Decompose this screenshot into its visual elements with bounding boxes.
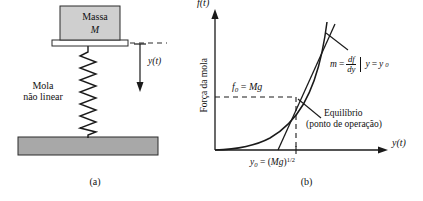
- figure-container: Massa M Mola não linear y(t) (a): [0, 0, 423, 201]
- mass-box-label-m: M: [0, 24, 190, 35]
- mass-support-plate: [52, 40, 128, 46]
- force-level-label: f0 = Mg: [232, 81, 262, 95]
- y-axis-name-label: Força da mola: [199, 37, 210, 133]
- y-axis-tip-label: f(t): [197, 0, 209, 8]
- mass-box-label-massa: Massa: [0, 11, 190, 22]
- force-level-mg: Mg: [249, 81, 262, 92]
- displacement-label-yt: y(t): [148, 56, 161, 67]
- nonlinear-spring: [80, 45, 96, 138]
- slope-m: m: [330, 59, 337, 70]
- equilibrium-annotation: Equilíbrio (ponto de operação): [306, 108, 382, 129]
- slope-fraction: df dy: [346, 55, 356, 74]
- panel-b-drawing: [190, 0, 423, 201]
- displacement-arrow-head: [137, 82, 144, 92]
- slope-eq: =: [339, 59, 344, 70]
- spring-label-line1: Mola: [12, 80, 74, 91]
- slope-annotation: m = df dy y = y0: [330, 55, 389, 74]
- y0-mg: Mg: [271, 157, 284, 167]
- panel-b-force-displacement-chart: f(t) y(t) Força da mola f0 = Mg y0 = (Mg…: [190, 0, 423, 201]
- slope-denominator: dy: [346, 65, 356, 74]
- slope-cond-sub: 0: [385, 61, 388, 68]
- spring-label-line2: não linear: [12, 91, 74, 102]
- force-level-eq: =: [238, 81, 249, 92]
- spring-label: Mola não linear: [12, 80, 74, 102]
- caption-b: (b): [190, 176, 423, 187]
- x-axis-tip-label: y(t): [392, 137, 406, 148]
- y0-exponent: 1/2: [287, 156, 295, 163]
- y0-label: y0 = (Mg)1/2: [250, 156, 295, 168]
- ground-slab: [18, 137, 158, 155]
- x-axis-arrow-head: [378, 146, 388, 153]
- panel-a-mass-spring-diagram: Massa M Mola não linear y(t) (a): [0, 0, 190, 201]
- slope-leader-line: [326, 33, 348, 50]
- tangent-line: [278, 24, 335, 150]
- y0-eq: = (: [258, 157, 271, 167]
- equilibrium-line1: Equilíbrio: [306, 108, 382, 119]
- slope-cond-eq: =: [372, 59, 377, 70]
- slope-cond-y0: y: [379, 59, 383, 70]
- caption-a: (a): [0, 176, 190, 187]
- equilibrium-line2: (ponto de operação): [306, 119, 382, 130]
- slope-cond-y: y: [365, 59, 369, 70]
- y-axis-arrow-head: [211, 9, 218, 19]
- evaluation-bar: [360, 57, 361, 72]
